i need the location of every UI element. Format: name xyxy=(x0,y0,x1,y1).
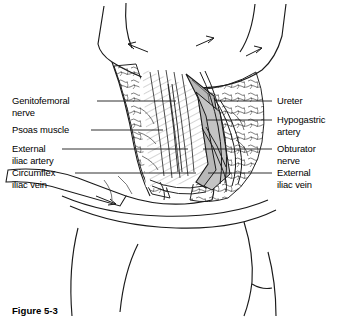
label-obturator-nerve-line1: Obturator xyxy=(277,143,316,154)
label-external-iliac-artery-line2: iliac artery xyxy=(12,155,54,167)
label-hypogastric-artery-line1: Hypogastric xyxy=(277,114,325,125)
label-hypogastric-artery-line2: artery xyxy=(277,126,325,138)
label-external-iliac-artery: External iliac artery xyxy=(12,143,54,166)
label-circumflex-iliac-vein-line1: Circumflex xyxy=(12,167,55,178)
anatomical-figure: Genitofemoral nerve Psoas muscle Externa… xyxy=(0,0,349,318)
figure-caption: Figure 5-3 xyxy=(12,305,58,316)
label-circumflex-iliac-vein-line2: iliac vein xyxy=(12,179,55,191)
dissection-field xyxy=(138,66,212,190)
label-psoas-muscle-line1: Psoas muscle xyxy=(12,124,69,135)
label-circumflex-iliac-vein: Circumflex iliac vein xyxy=(12,167,55,190)
label-psoas-muscle: Psoas muscle xyxy=(12,124,69,136)
label-external-iliac-vein-line1: External xyxy=(277,167,311,178)
label-external-iliac-vein-line2: iliac vein xyxy=(277,179,312,191)
label-genitofemoral-nerve: Genitofemoral nerve xyxy=(12,95,70,118)
label-hypogastric-artery: Hypogastric artery xyxy=(277,114,325,137)
label-obturator-nerve-line2: nerve xyxy=(277,155,316,167)
label-external-iliac-artery-line1: External xyxy=(12,143,46,154)
label-external-iliac-vein: External iliac vein xyxy=(277,167,312,190)
label-genitofemoral-nerve-line1: Genitofemoral xyxy=(12,95,70,106)
label-obturator-nerve: Obturator nerve xyxy=(277,143,316,166)
label-ureter: Ureter xyxy=(277,95,302,107)
label-genitofemoral-nerve-line2: nerve xyxy=(12,107,70,119)
label-ureter-line1: Ureter xyxy=(277,95,302,106)
